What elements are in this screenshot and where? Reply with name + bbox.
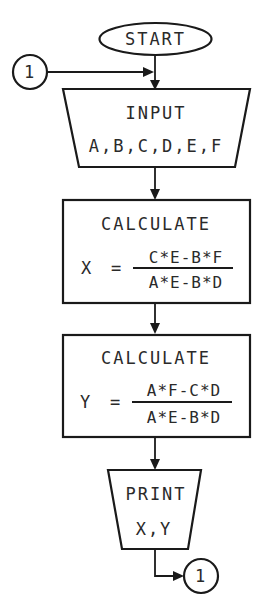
- calc-y-numerator: A*F-C*D: [147, 381, 221, 400]
- calc-x-numerator: C*E-B*F: [149, 248, 223, 267]
- start-terminator: START: [100, 23, 212, 55]
- line-print-to-connector: [155, 549, 176, 576]
- flowchart: START 1 INPUT A,B,C,D,E,F CALCULATE X = …: [0, 0, 270, 612]
- calc-x-denominator: A*E-B*D: [149, 273, 223, 292]
- print-vars: X,Y: [136, 519, 173, 539]
- arrow-down-icon: [150, 323, 160, 334]
- calc-y-lhs: Y: [80, 392, 92, 412]
- calc-x-title: CALCULATE: [101, 214, 211, 234]
- input-vars: A,B,C,D,E,F: [89, 136, 224, 156]
- calc-y-denominator: A*E-B*D: [147, 408, 221, 427]
- arrow-down-icon: [150, 189, 160, 200]
- arrow-right-icon: [173, 571, 184, 581]
- connector-in-label: 1: [24, 62, 36, 82]
- arrow-right-icon: [143, 67, 154, 77]
- connector-out-label: 1: [195, 566, 207, 586]
- input-block: INPUT A,B,C,D,E,F: [63, 89, 250, 167]
- calc-x-lhs: X: [81, 258, 93, 278]
- calc-y-title: CALCULATE: [101, 348, 211, 368]
- print-title: PRINT: [125, 484, 186, 504]
- calc-y-block: CALCULATE Y = A*F-C*D A*E-B*D: [63, 335, 250, 437]
- input-title: INPUT: [125, 103, 186, 123]
- connector-in: 1: [13, 55, 47, 89]
- connector-out: 1: [184, 559, 218, 593]
- print-block: PRINT X,Y: [108, 470, 201, 549]
- calc-y-equals: =: [110, 392, 122, 412]
- start-label: START: [125, 29, 186, 49]
- calc-x-block: CALCULATE X = C*E-B*F A*E-B*D: [63, 200, 250, 303]
- calc-x-equals: =: [111, 258, 123, 278]
- arrow-down-icon: [150, 459, 160, 470]
